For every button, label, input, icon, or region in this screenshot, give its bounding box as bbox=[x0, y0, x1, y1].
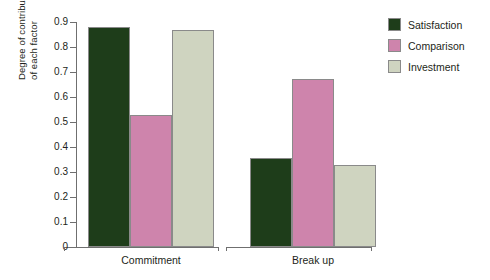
x-axis-line-segment-left bbox=[64, 247, 218, 248]
y-axis-tick-label-text: 0.2 bbox=[34, 192, 68, 202]
x-axis-label-break-up: Break up bbox=[250, 254, 376, 266]
bar-commitment-investment bbox=[172, 30, 214, 248]
y-axis-title-line-1: Degree of contribution bbox=[16, 0, 28, 80]
legend-swatch-icon bbox=[388, 39, 401, 52]
y-axis-tick-label-text: 0.8 bbox=[34, 42, 68, 52]
bar-commitment-satisfaction bbox=[88, 27, 130, 247]
legend-swatch-icon bbox=[388, 18, 401, 31]
y-axis-tick-label-text: 0.5 bbox=[34, 117, 68, 127]
y-axis-tick-label-text: 0.9 bbox=[34, 17, 68, 27]
x-axis-tick-end bbox=[371, 247, 372, 251]
legend-item-satisfaction[interactable]: Satisfaction bbox=[388, 14, 488, 35]
x-axis-tick-start bbox=[64, 247, 65, 251]
y-axis-tick-label-text: 0.4 bbox=[34, 142, 68, 152]
bar-break-up-investment bbox=[334, 165, 376, 247]
bar-break-up-satisfaction bbox=[250, 158, 292, 247]
legend-item-label: Satisfaction bbox=[408, 19, 462, 31]
y-axis-tick-label-text: 0.3 bbox=[34, 167, 68, 177]
y-axis-tick-label-text: 0.6 bbox=[34, 92, 68, 102]
x-axis-tick-mid-left bbox=[218, 247, 219, 251]
bar-break-up-comparison bbox=[292, 79, 334, 247]
y-axis-tick-label-text: 0.1 bbox=[34, 217, 68, 227]
chart-legend: SatisfactionComparisonInvestment bbox=[388, 14, 488, 77]
y-axis-tick-label-text: 0 bbox=[34, 242, 68, 252]
legend-item-investment[interactable]: Investment bbox=[388, 56, 488, 77]
y-axis-tick-mark bbox=[70, 247, 76, 248]
legend-item-label: Comparison bbox=[408, 40, 465, 52]
bar-group-container bbox=[76, 22, 370, 247]
legend-item-label: Investment bbox=[408, 61, 459, 73]
x-axis-line-segment-right bbox=[226, 247, 372, 248]
legend-swatch-icon bbox=[388, 60, 401, 73]
legend-item-comparison[interactable]: Comparison bbox=[388, 35, 488, 56]
bar-commitment-comparison bbox=[130, 115, 172, 247]
x-axis-label-commitment: Commitment bbox=[88, 254, 214, 266]
x-axis-tick-mid-right bbox=[226, 247, 227, 251]
bar-chart-figure: Degree of contribution of each factor 00… bbox=[0, 0, 490, 280]
y-axis-tick-label-text: 0.7 bbox=[34, 67, 68, 77]
